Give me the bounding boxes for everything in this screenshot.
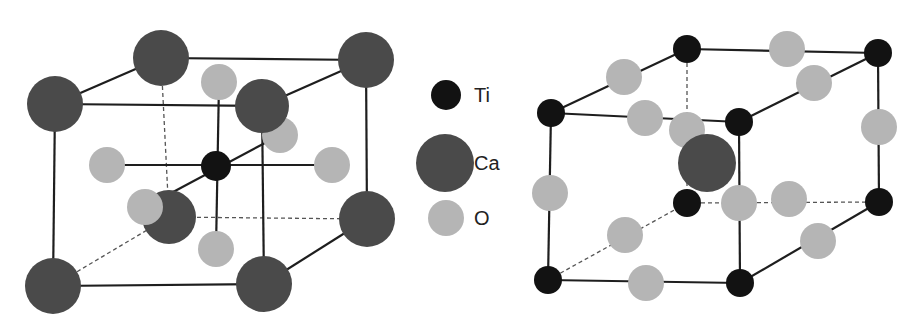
legend-label-o: O bbox=[474, 207, 490, 229]
ca-atom bbox=[236, 256, 292, 312]
legend-label-ca: Ca bbox=[474, 152, 500, 174]
ca-atom bbox=[27, 76, 83, 132]
ti-atom bbox=[864, 39, 892, 67]
ti-atom bbox=[725, 108, 753, 136]
o-atom bbox=[861, 109, 897, 145]
left-unit-cell-ca-corner bbox=[25, 30, 395, 314]
ti-atom bbox=[726, 269, 754, 297]
o-atom bbox=[89, 147, 125, 183]
legend-label-ti: Ti bbox=[474, 84, 490, 106]
o-atom bbox=[628, 265, 664, 301]
o-atom bbox=[769, 31, 805, 67]
ti-atom bbox=[673, 189, 701, 217]
ca-atom bbox=[133, 30, 189, 86]
o-atom bbox=[198, 231, 234, 267]
o-atom bbox=[532, 175, 568, 211]
ti-atom bbox=[865, 188, 893, 216]
o-atom bbox=[771, 181, 807, 217]
o-atom bbox=[606, 59, 642, 95]
o-atom bbox=[607, 217, 643, 253]
bond-line bbox=[53, 284, 264, 286]
o-atom bbox=[627, 100, 663, 136]
bond-line bbox=[55, 104, 262, 106]
ca-atom bbox=[416, 134, 474, 192]
ti-atom bbox=[201, 151, 231, 181]
o-atom bbox=[201, 64, 237, 100]
ti-atom bbox=[673, 35, 701, 63]
ti-atom bbox=[534, 266, 562, 294]
right-unit-cell-ti-corner bbox=[532, 31, 897, 301]
ca-atom bbox=[678, 134, 736, 192]
ca-atom bbox=[235, 79, 289, 133]
bond-line bbox=[161, 58, 366, 60]
o-atom bbox=[721, 185, 757, 221]
hidden-bond-line bbox=[169, 217, 367, 219]
ti-atom bbox=[537, 99, 565, 127]
o-atom bbox=[127, 189, 163, 225]
o-atom bbox=[428, 200, 464, 236]
ca-atom bbox=[25, 258, 81, 314]
ca-atom bbox=[339, 191, 395, 247]
perovskite-structure-diagram: Ti Ca O bbox=[0, 0, 911, 325]
ti-atom bbox=[431, 80, 461, 110]
legend: Ti Ca O bbox=[416, 80, 500, 236]
legend-swatches bbox=[416, 80, 474, 236]
ca-atom bbox=[338, 32, 394, 88]
o-atom bbox=[314, 147, 350, 183]
o-atom bbox=[800, 223, 836, 259]
o-atom bbox=[796, 65, 832, 101]
